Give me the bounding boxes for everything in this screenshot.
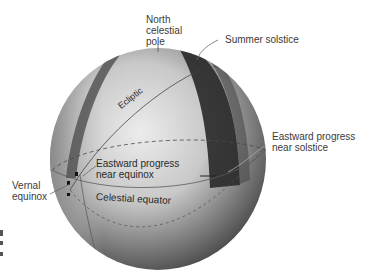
edge-mark	[0, 230, 3, 236]
edge-mark	[0, 252, 3, 256]
summer-solstice-label: Summer solstice	[225, 34, 299, 45]
celestial-sphere-diagram: North celestial pole Summer solstice Ecl…	[0, 0, 368, 280]
eastward-equinox-label: Eastward progress near equinox	[96, 158, 179, 180]
eastward-solstice-label: Eastward progress near solstice	[272, 131, 355, 153]
vernal-equinox-label: Vernal equinox	[12, 180, 47, 202]
edge-mark	[0, 241, 3, 245]
north-pole-label: North celestial pole	[146, 14, 182, 47]
